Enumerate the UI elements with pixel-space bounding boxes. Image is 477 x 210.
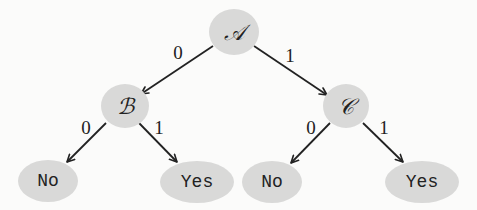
leaf-b0-label: No xyxy=(37,171,59,191)
leaf-b1-label: Yes xyxy=(181,172,213,192)
leaf-b1-yes: Yes xyxy=(160,161,234,203)
leaf-c0-no: No xyxy=(242,161,302,203)
edge-label-b-b0: 0 xyxy=(81,118,91,137)
edge-label-c-c1: 1 xyxy=(379,118,389,137)
node-c: 𝒞 xyxy=(323,84,369,128)
node-a: 𝒜 xyxy=(209,9,259,55)
edge-label-a-b: 0 xyxy=(173,43,183,62)
node-b: ℬ xyxy=(101,84,149,128)
node-b-label: ℬ xyxy=(117,94,134,119)
decision-tree-diagram: 𝒜 ℬ 𝒞 No Yes No Yes 0 1 0 1 0 1 xyxy=(0,0,477,210)
node-a-label: 𝒜 xyxy=(224,20,245,45)
leaf-c1-label: Yes xyxy=(406,172,438,192)
leaf-c0-label: No xyxy=(261,172,283,192)
leaf-b0-no: No xyxy=(18,160,78,202)
edge-label-b-b1: 1 xyxy=(154,118,164,137)
edge-label-a-c: 1 xyxy=(285,46,295,65)
node-c-label: 𝒞 xyxy=(338,94,354,119)
leaf-c1-yes: Yes xyxy=(385,161,459,203)
edge-label-c-c0: 0 xyxy=(306,118,316,137)
